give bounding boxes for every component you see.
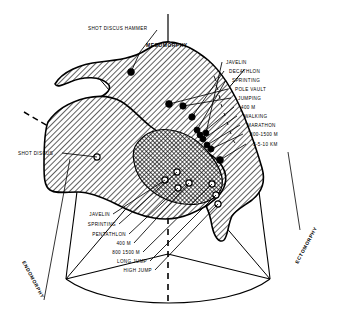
annotation-bottom-long-jump: LONG JUMP [117, 259, 147, 264]
pole-label-ectomorphy: ECTOMORPHY [294, 226, 318, 265]
annotation-bottom-pentathlon: PENTATHLON [92, 232, 126, 237]
annotation-right-3-5-10km: 3-5-10 KM [253, 142, 278, 147]
leader-line [288, 152, 300, 230]
annotation-bottom-400m: 400 M [116, 241, 131, 246]
annotation-bottom-sprinting: SPRINTING [88, 222, 116, 227]
pole-label-endomorphy: ENDOMORPHY [21, 260, 45, 299]
annotation-left-label: SHOT DISCUS [18, 151, 53, 156]
annotation-right-marathon: MARATHON [247, 123, 276, 128]
annotation-right-walking: WALKING [244, 114, 268, 119]
annotation-bottom-javelin: JAVELIN [89, 212, 110, 217]
annotation-bottom-high-jump: HIGH JUMP [124, 268, 152, 273]
annotation-bottom-800-1500m: 800 1500 M [112, 250, 140, 255]
annotation-right-800-1500m: 800-1500 M [250, 132, 278, 137]
annotation-right-decathlon: DECATHLON [229, 69, 260, 74]
annotation-right-pole-vault: POLE VAULT [235, 87, 266, 92]
pole-label-mesomorphy: MESOMORPHY [146, 42, 188, 48]
annotation-right-sprinting: SPRINTING [232, 78, 260, 83]
annotation-top-label: SHOT DISCUS HAMMER [88, 26, 148, 31]
somatochart-svg: SHOT DISCUS HAMMER MESOMORPHY ENDOMORPHY… [0, 0, 337, 327]
annotation-right-javelin: JAVELIN [226, 60, 247, 65]
annotation-right-400m: 400 M [241, 105, 256, 110]
somatochart-figure: SHOT DISCUS HAMMER MESOMORPHY ENDOMORPHY… [0, 0, 337, 327]
annotation-right-jumping: JUMPING [238, 96, 261, 101]
